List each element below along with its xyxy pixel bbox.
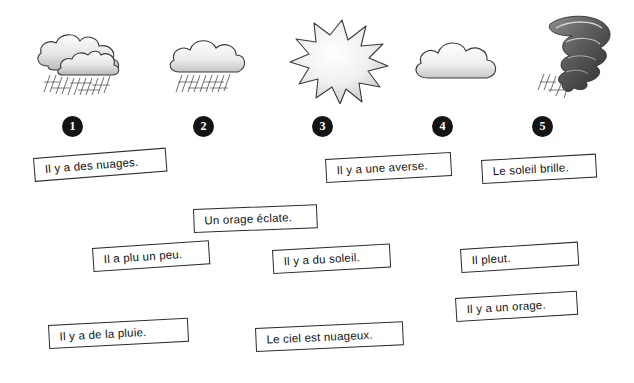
storm-tornado-icon: [520, 12, 634, 92]
sentence-strip[interactable]: Il y a une averse.: [325, 152, 452, 183]
sentence-strip[interactable]: Il y a des nuages.: [33, 148, 167, 182]
cloud-icon: [404, 22, 524, 102]
sentence-strip[interactable]: Il y a du soleil.: [272, 243, 391, 274]
sentence-strip[interactable]: Il y a un orage.: [455, 291, 578, 322]
number-badge-3: 3: [312, 116, 333, 137]
sentence-strip[interactable]: Il a plu un peu.: [92, 240, 210, 272]
sentence-strip[interactable]: Un orage éclate.: [193, 204, 318, 233]
sentence-strip[interactable]: Le ciel est nuageux.: [255, 321, 404, 352]
sentence-strip[interactable]: Le soleil brille.: [481, 154, 597, 184]
sun-icon: [282, 14, 402, 94]
number-badge-1: 1: [62, 116, 83, 137]
number-badge-2: 2: [193, 116, 214, 137]
sentence-strip[interactable]: Il y a de la pluie.: [48, 318, 189, 349]
light-rain-cloud-icon: [158, 22, 278, 102]
sentence-strip[interactable]: Il pleut.: [460, 242, 579, 273]
number-badge-4: 4: [432, 116, 453, 137]
weather-worksheet: 1 2 3 4 5 Il y a des nuages. Il y a une …: [0, 0, 634, 383]
rain-clouds-icon: [30, 22, 150, 102]
number-badge-5: 5: [532, 116, 553, 137]
